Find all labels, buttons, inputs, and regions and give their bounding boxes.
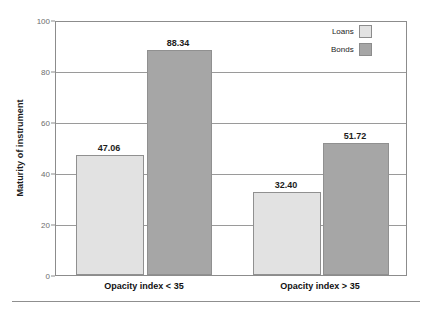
bar-value-label-32: 32.40	[275, 180, 298, 190]
gridline-80	[56, 72, 406, 73]
legend-swatch-bonds	[359, 43, 372, 56]
legend-item-loans: Loans	[331, 25, 372, 38]
bar-value-label-88: 88.34	[167, 38, 190, 48]
y-tick-label-60: 60	[41, 119, 50, 128]
y-tick-label-0: 0	[46, 272, 50, 281]
bar-value-label-47: 47.06	[98, 143, 121, 153]
y-tick-label-20: 20	[41, 221, 50, 230]
x-category-label-lt-35: Opacity index < 35	[104, 281, 183, 291]
y-tick-label-80: 80	[41, 68, 50, 77]
bar-value-label-51: 51.72	[344, 131, 367, 141]
x-category-label-gt-35: Opacity index > 35	[280, 281, 359, 291]
y-axis-title: Maturity of instrument	[15, 68, 25, 228]
bar-bonds-opacity-gt-35	[323, 143, 389, 275]
bar-chart-figure: Maturity of instrument 100 80 60 40 20 0…	[0, 0, 429, 316]
legend-swatch-loans	[359, 25, 372, 38]
gridline-60	[56, 123, 406, 124]
legend-label-loans: Loans	[332, 27, 354, 36]
legend-label-bonds: Bonds	[331, 45, 354, 54]
y-tick-label-100: 100	[37, 17, 50, 26]
bar-loans-opacity-lt-35	[76, 155, 144, 275]
bottom-divider-rule	[12, 301, 420, 302]
bar-bonds-opacity-lt-35	[147, 50, 212, 275]
legend: Loans Bonds	[331, 25, 372, 56]
y-tick-label-40: 40	[41, 170, 50, 179]
legend-item-bonds: Bonds	[331, 43, 372, 56]
bar-loans-opacity-gt-35	[253, 192, 321, 275]
